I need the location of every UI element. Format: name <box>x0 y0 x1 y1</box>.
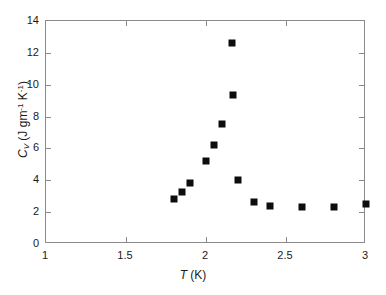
y-axis-subscript: V <box>22 144 31 149</box>
data-point <box>299 204 306 211</box>
x-axis-unit: (K) <box>190 268 206 282</box>
y-tick <box>46 85 51 86</box>
data-point <box>219 120 226 127</box>
x-tick-label: 3 <box>362 250 368 261</box>
data-point <box>179 189 186 196</box>
data-point <box>228 40 235 47</box>
y-axis-label: CV (J gm-1 K-1) <box>16 50 31 190</box>
data-point <box>187 180 194 187</box>
x-tick <box>206 237 207 242</box>
y-tick <box>46 148 51 149</box>
x-tick <box>286 237 287 242</box>
y-tick-label: 0 <box>14 238 39 249</box>
y-axis-exponent-1: -1 <box>16 104 25 111</box>
x-axis-label: T (K) <box>0 268 386 282</box>
y-axis-unit-mid: K <box>16 92 30 103</box>
y-tick-label: 2 <box>14 206 39 217</box>
data-point <box>363 201 370 208</box>
x-tick <box>206 21 207 26</box>
y-tick <box>359 117 364 118</box>
y-tick <box>359 180 364 181</box>
y-tick <box>46 180 51 181</box>
y-tick-label: 14 <box>14 15 39 26</box>
data-point <box>331 203 338 210</box>
x-tick <box>126 237 127 242</box>
data-point <box>251 198 258 205</box>
y-tick <box>359 148 364 149</box>
x-tick-label: 1 <box>42 250 48 261</box>
y-tick <box>46 212 51 213</box>
x-tick <box>126 21 127 26</box>
y-axis-symbol: C <box>16 149 30 158</box>
data-point <box>211 142 218 149</box>
data-point <box>267 202 274 209</box>
chart-figure: 11.522.53 02468101214 T (K) CV (J gm-1 K… <box>0 0 386 295</box>
x-tick-label: 1.5 <box>117 250 132 261</box>
y-axis-unit-close: ) <box>16 81 30 85</box>
y-tick <box>46 53 51 54</box>
y-tick <box>46 117 51 118</box>
data-point <box>230 92 237 99</box>
y-tick <box>359 85 364 86</box>
y-axis-exponent-2: -1 <box>16 85 25 92</box>
data-point <box>171 196 178 203</box>
x-tick <box>286 21 287 26</box>
y-tick <box>359 53 364 54</box>
data-point <box>235 177 242 184</box>
x-axis-symbol: T <box>180 268 187 282</box>
y-tick <box>359 212 364 213</box>
x-tick-label: 2 <box>202 250 208 261</box>
y-axis-unit-open: (J gm <box>16 111 30 141</box>
x-tick-label: 2.5 <box>277 250 292 261</box>
plot-area <box>45 20 365 243</box>
data-point <box>203 158 210 165</box>
